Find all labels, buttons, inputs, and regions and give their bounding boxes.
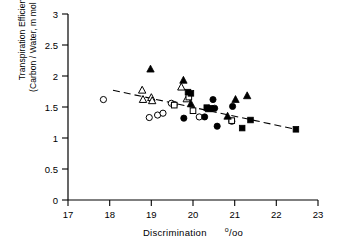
x-tick-23: 23 [313,209,324,220]
data-point-open-triangle [178,83,185,90]
y-tick-0: 0 [53,195,58,206]
y-tick-1: 1 [53,133,58,144]
data-point-open-circle [146,114,152,120]
data-point-filled-square [248,117,254,123]
x-tick-19: 19 [146,209,157,220]
data-point-filled-triangle [147,65,154,72]
data-point-filled-triangle [232,96,239,103]
data-point-open-circle [160,110,166,116]
y-tick-2_5: 2.5 [45,40,58,51]
data-point-filled-square [239,125,245,131]
permil-unit: o/oo [225,226,243,238]
x-axis-label: Discriminationo/oo [68,226,318,238]
data-point-open-triangle [138,86,145,93]
data-point-filled-circle [214,123,220,129]
data-point-filled-square [188,91,194,97]
y-tick-1_5: 1.5 [45,102,58,113]
x-axis-ticks [68,200,318,206]
x-tick-18: 18 [104,209,115,220]
y-axis-ticks [62,14,68,200]
data-point-filled-square [293,127,299,133]
x-tick-17: 17 [63,209,74,220]
y-tick-2: 2 [53,71,58,82]
data-point-filled-triangle [180,76,187,83]
x-tick-21: 21 [229,209,240,220]
data-point-open-square [171,102,177,108]
chart-figure: Transpiration Efficiency (Carbon / Water… [0,0,338,252]
x-tick-22: 22 [271,209,282,220]
data-markers [100,65,298,132]
data-point-filled-circle [229,103,235,109]
data-point-open-circle [100,96,106,102]
data-point-filled-circle [210,96,216,102]
x-axis-tick-labels: 17 18 19 20 21 22 23 [63,209,324,220]
data-point-filled-circle [212,105,218,111]
x-axis-label-text: Discrimination [143,227,207,238]
plot-svg: 0 0.5 1 1.5 2 2.5 3 17 18 19 20 21 22 23 [0,0,338,252]
y-tick-0_5: 0.5 [45,164,58,175]
data-point-filled-triangle [243,92,250,99]
x-tick-20: 20 [188,209,199,220]
data-point-filled-circle [181,115,187,121]
data-point-open-square [190,108,196,114]
y-tick-3: 3 [53,9,58,20]
data-point-filled-circle [202,114,208,120]
data-point-filled-triangle [224,112,231,119]
y-axis-tick-labels: 0 0.5 1 1.5 2 2.5 3 [45,9,58,206]
